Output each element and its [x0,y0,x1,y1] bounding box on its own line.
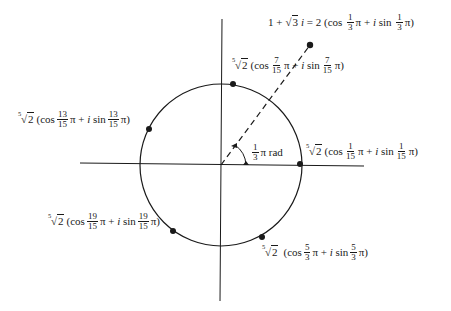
point-root-k1 [230,81,236,87]
denominator: 3 [396,23,403,32]
fraction: 13 [347,13,354,32]
fraction: 53 [350,243,357,262]
fifth-root: 5√2 [232,60,248,71]
root-index: 5 [232,57,235,64]
denominator: 3 [304,253,311,262]
fraction: 13 [396,13,403,32]
fraction: 715 [271,56,282,75]
root-label-k3: 5√2 (cos 1915 π + i sin 1915 π) [48,212,160,231]
imaginary-axis [220,19,222,301]
label-text: 1 + [268,17,282,28]
label-text: sin [304,60,320,71]
root-label-k4: 5√2 (cos 53 π + i sin 53 π) [262,243,368,262]
fraction: 1315 [108,110,119,129]
label-text: π + [358,146,375,157]
root-label-k0: 5√2 (cos 115 π + i sin 115 π) [306,142,418,161]
denominator: 15 [345,152,356,161]
denominator: 15 [138,222,149,231]
point-root-k3 [170,228,176,234]
root-index: 5 [262,244,265,251]
label-text: π) [359,247,368,258]
label-text: sin [376,17,394,28]
label-text: π) [335,60,344,71]
root-label-k1: 5√2 (cos 715 π + i sin 715 π) [232,56,344,75]
fifth-root: 5√2 [48,216,64,227]
radicand: 2 [241,58,248,71]
label-text: sin [120,216,136,227]
fraction: 1915 [138,212,149,231]
point-root-k2 [146,126,152,132]
denominator: 3 [347,23,354,32]
fraction: 115 [396,142,407,161]
label-text: π + [100,216,117,227]
denominator: 15 [87,222,98,231]
label-text: (cos [67,216,85,227]
label-text: sin [378,146,394,157]
denominator: 15 [396,152,407,161]
point-source [307,42,313,48]
root-label-k2: 5√2 (cos 1315 π + i sin 1315 π) [18,110,130,129]
denominator: 15 [322,66,333,75]
root-index: 5 [18,111,21,118]
fraction: 13 [252,143,259,162]
root-index: 5 [306,143,309,150]
angle-label: 13 π rad [250,143,283,162]
fraction: 715 [322,56,333,75]
fraction: 1315 [57,110,68,129]
label-text: sin [333,247,349,258]
root-index: 5 [48,213,51,220]
radicand: 2 [315,144,322,157]
denominator: 15 [108,120,119,129]
radicand: 2 [57,214,64,227]
source-point-label: 1 + √3 i = 2 (cos 13 π + i sin 13 π) [268,13,414,32]
denominator: 3 [252,153,259,162]
point-root-k4 [259,234,265,240]
angle-arc [235,145,246,165]
sqrt-3: √3 [282,17,298,28]
fifth-root: 5√2 [18,114,34,125]
fraction: 53 [304,243,311,262]
point-root-k0 [297,161,303,167]
label-text: π + [284,60,301,71]
fraction: 115 [345,142,356,161]
label-text: π) [151,216,160,227]
label-text: = 2 (cos [304,17,345,28]
arc-arrowhead-start [243,161,249,165]
label-text: (cos [251,60,269,71]
denominator: 15 [271,66,282,75]
label-text: π) [409,146,418,157]
angle-unit: π rad [261,147,283,158]
label-text: π) [121,114,130,125]
fifth-root: 5√2 [306,146,322,157]
fraction: 1915 [87,212,98,231]
label-text: sin [90,114,106,125]
label-text: π + [312,247,329,258]
denominator: 15 [57,120,68,129]
radicand: 2 [27,112,34,125]
label-text: π + [70,114,87,125]
label-text: (cos [325,146,343,157]
label-text: π) [405,17,414,28]
label-text: π + [356,17,373,28]
label-text: (cos [37,114,55,125]
label-text: (cos [284,247,302,258]
denominator: 3 [350,253,357,262]
fifth-root: 5√2 [262,247,278,258]
radicand: 2 [271,245,278,258]
radicand: 3 [292,15,299,28]
